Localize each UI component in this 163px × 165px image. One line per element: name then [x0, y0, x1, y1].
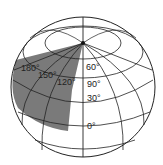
globe-diagram: 180° 150° 120° 60° 90° 30° 0°	[0, 0, 163, 165]
latitude-label-0: 0°	[87, 121, 96, 131]
north-pole-dot	[81, 41, 85, 45]
latitude-label-90: 90°	[87, 79, 101, 89]
latitude-label-30: 30°	[87, 93, 101, 103]
longitude-label-150: 150°	[38, 70, 57, 80]
latitude-label-60: 60°	[86, 62, 100, 72]
longitude-label-120: 120°	[57, 77, 76, 87]
